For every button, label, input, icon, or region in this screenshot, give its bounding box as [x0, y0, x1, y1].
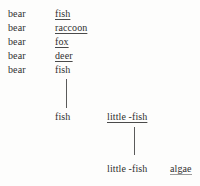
row-object-1: fish	[55, 8, 70, 19]
level3-right-algae: algae	[170, 163, 192, 175]
row-subject-2: bear	[8, 22, 26, 33]
row-subject-5: bear	[8, 64, 26, 75]
figure-canvas: bear bear bear bear bear fish raccoon fo…	[0, 0, 200, 186]
connector-fish-to-fish	[66, 79, 67, 108]
row-object-3: fox	[55, 36, 69, 47]
row-subject-4: bear	[8, 50, 26, 61]
connector-little-fish-to-little-fish	[134, 127, 135, 155]
level3-left-little-fish: little -fish	[107, 163, 147, 174]
row-subject-3: bear	[8, 36, 26, 47]
row-object-2: raccoon	[55, 22, 87, 33]
row-object-4: deer	[55, 50, 73, 61]
row-object-5: fish	[55, 64, 70, 75]
level2-right-little-fish: little -fish	[107, 111, 147, 122]
row-subject-1: bear	[8, 8, 26, 19]
level2-left-fish: fish	[55, 111, 70, 122]
